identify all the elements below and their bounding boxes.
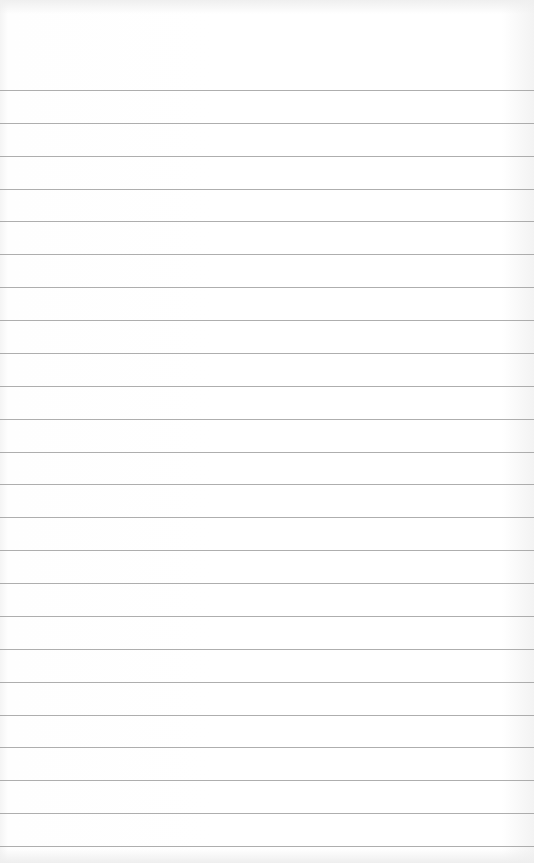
ruled-line (0, 484, 534, 485)
ruled-line (0, 419, 534, 420)
bottom-edge-shadow (0, 849, 534, 863)
ruled-line (0, 747, 534, 748)
ruled-line (0, 254, 534, 255)
ruled-line (0, 846, 534, 847)
ruled-line (0, 550, 534, 551)
ruled-line (0, 452, 534, 453)
ruled-line (0, 517, 534, 518)
ruled-line (0, 287, 534, 288)
ruled-line (0, 616, 534, 617)
ruled-line (0, 189, 534, 190)
ruled-line (0, 780, 534, 781)
ruled-line (0, 583, 534, 584)
ruled-line (0, 221, 534, 222)
top-edge-shadow (0, 0, 534, 14)
ruled-line (0, 353, 534, 354)
ruled-line (0, 715, 534, 716)
ruled-line (0, 90, 534, 91)
ruled-line (0, 320, 534, 321)
ruled-line (0, 386, 534, 387)
ruled-line (0, 123, 534, 124)
ruled-line (0, 649, 534, 650)
ruled-line (0, 813, 534, 814)
ruled-line (0, 156, 534, 157)
ruled-line (0, 682, 534, 683)
lined-paper-sheet (0, 0, 534, 863)
